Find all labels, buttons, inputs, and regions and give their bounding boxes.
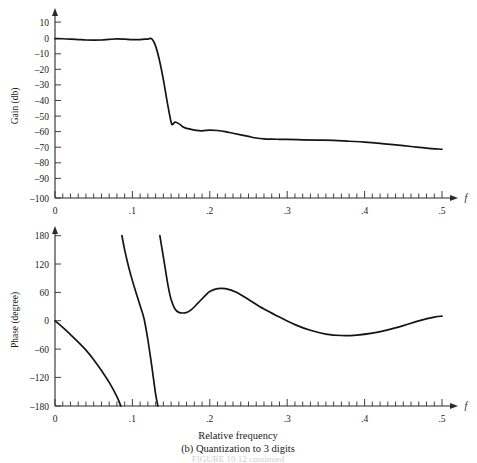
gain-ytick-label: –70 xyxy=(34,143,50,153)
gain-xtick-label: .3 xyxy=(284,206,291,216)
gain-ytick-label: –20 xyxy=(34,65,50,75)
phase-curve-branch xyxy=(160,236,442,336)
gain-ytick-label: –30 xyxy=(34,80,50,90)
gain-ytick-label: –60 xyxy=(34,127,50,137)
phase-ytick-label: –180 xyxy=(29,402,49,412)
gain-x-axis-arrow-icon xyxy=(450,195,458,201)
gain-ytick-label: –50 xyxy=(34,112,50,122)
gain-x-axis-symbol: f xyxy=(465,192,469,203)
gain-ytick-label: –40 xyxy=(34,96,50,106)
gain-y-axis-arrow-icon xyxy=(52,8,58,16)
gain-x-ticks xyxy=(55,191,442,198)
phase-ytick-label: 0 xyxy=(44,316,49,326)
gain-xtick-label: .4 xyxy=(361,206,368,216)
gain-ytick-label: 10 xyxy=(40,18,50,28)
phase-xtick-label: .4 xyxy=(361,414,368,424)
gain-y-ticks xyxy=(55,22,61,198)
figure-container: 10 0 –10 –20 –30 –40 –50 –60 –70 –80 –90… xyxy=(0,0,477,463)
gain-ytick-label: –100 xyxy=(29,194,49,204)
gain-xtick-label: .5 xyxy=(438,206,445,216)
phase-curve-branch xyxy=(122,236,158,406)
phase-x-ticks xyxy=(55,399,442,406)
gain-panel: 10 0 –10 –20 –30 –40 –50 –60 –70 –80 –90… xyxy=(10,8,469,216)
gain-xtick-label: .1 xyxy=(129,206,136,216)
phase-xtick-label: .3 xyxy=(284,414,291,424)
phase-y-axis-arrow-icon xyxy=(52,226,58,234)
gain-ytick-label: 0 xyxy=(44,34,49,44)
phase-xtick-label: 0 xyxy=(53,414,58,424)
phase-y-tick-labels: 180 120 60 0 –60 –120 –180 xyxy=(29,231,49,411)
phase-panel: 180 120 60 0 –60 –120 –180 0 .1 .2 .3 .4… xyxy=(10,226,469,424)
phase-ytick-label: 180 xyxy=(35,231,50,241)
phase-xtick-label: .1 xyxy=(129,414,136,424)
gain-ytick-label: –80 xyxy=(34,158,50,168)
gain-curve xyxy=(55,38,442,149)
phase-x-tick-labels: 0 .1 .2 .3 .4 .5 xyxy=(53,414,446,424)
figure-caption: Relative frequency (b) Quantization to 3… xyxy=(181,430,295,463)
phase-curve-branch xyxy=(55,321,121,406)
figure-svg: 10 0 –10 –20 –30 –40 –50 –60 –70 –80 –90… xyxy=(0,0,477,463)
phase-x-axis-symbol: f xyxy=(465,400,469,411)
phase-ytick-label: –60 xyxy=(34,345,50,355)
phase-ytick-label: 60 xyxy=(40,288,50,298)
gain-xtick-label: .2 xyxy=(206,206,213,216)
gain-y-tick-labels: 10 0 –10 –20 –30 –40 –50 –60 –70 –80 –90… xyxy=(29,18,49,204)
phase-y-axis-title: Phase (degree) xyxy=(10,292,21,348)
phase-ytick-label: 120 xyxy=(35,260,50,270)
gain-ytick-label: –10 xyxy=(34,49,50,59)
gain-xtick-label: 0 xyxy=(53,206,58,216)
gain-x-tick-labels: 0 .1 .2 .3 .4 .5 xyxy=(53,206,446,216)
phase-x-axis-arrow-icon xyxy=(450,403,458,409)
phase-xtick-label: .2 xyxy=(206,414,213,424)
caption-line-relative-frequency: Relative frequency xyxy=(198,430,278,441)
phase-xtick-label: .5 xyxy=(438,414,445,424)
phase-ytick-label: –120 xyxy=(29,373,49,383)
caption-line-figure-number: FIGURE 10.12 continued xyxy=(192,454,285,463)
gain-y-axis-title: Gain (db) xyxy=(10,88,21,125)
gain-ytick-label: –90 xyxy=(34,174,50,184)
